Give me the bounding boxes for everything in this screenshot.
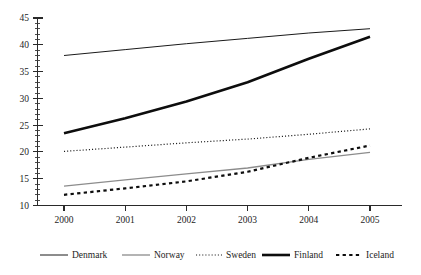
chart-canvas: 1015202530354045 20002001200220032004200… <box>0 0 421 275</box>
legend-label-finland: Finland <box>294 250 323 260</box>
x-tick-label: 2004 <box>299 215 318 225</box>
line-chart-figure: 1015202530354045 20002001200220032004200… <box>0 0 421 275</box>
y-tick-label: 15 <box>20 174 30 184</box>
x-tick-label: 2000 <box>55 215 74 225</box>
x-tick-label: 2001 <box>116 215 135 225</box>
x-tick-label: 2003 <box>238 215 257 225</box>
legend-label-denmark: Denmark <box>72 250 108 260</box>
y-tick-label: 40 <box>20 40 30 50</box>
y-tick-label: 45 <box>20 13 30 23</box>
y-tick-label: 20 <box>20 147 30 157</box>
y-tick-label: 35 <box>20 67 30 77</box>
y-tick-label: 10 <box>20 201 30 211</box>
x-tick-label: 2002 <box>177 215 196 225</box>
y-tick-label: 25 <box>20 121 30 131</box>
legend-label-sweden: Sweden <box>226 250 256 260</box>
x-tick-label: 2005 <box>361 215 380 225</box>
y-tick-label: 30 <box>20 94 30 104</box>
legend-label-iceland: Iceland <box>366 250 394 260</box>
legend-label-norway: Norway <box>154 250 185 260</box>
